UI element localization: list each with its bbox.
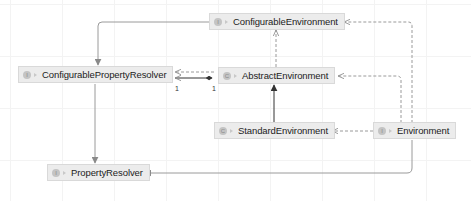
visibility-icon [389, 129, 392, 133]
edge-environment-abstractenvironment [338, 76, 401, 123]
node-label: ConfigurablePropertyResolver [42, 69, 166, 80]
class-icon: C [219, 127, 227, 135]
visibility-icon [34, 73, 37, 77]
visibility-icon [230, 129, 233, 133]
node-environment[interactable]: I Environment [373, 122, 456, 139]
edge-environment-configurableenvironment [344, 22, 412, 123]
interface-icon: I [378, 127, 386, 135]
node-label: Environment [397, 125, 449, 136]
edge-configurableenvironment-configurablepropertyresolver [98, 22, 211, 65]
multiplicity-label-left: 1 [175, 85, 179, 92]
node-label: AbstractEnvironment [242, 70, 328, 81]
node-standard-environment[interactable]: C StandardEnvironment [214, 122, 335, 139]
node-label: PropertyResolver [71, 167, 143, 178]
node-property-resolver[interactable]: I PropertyResolver [47, 164, 150, 181]
interface-icon: I [23, 71, 31, 79]
visibility-icon [234, 74, 237, 78]
multiplicity-label-right: 1 [212, 85, 216, 92]
node-label: StandardEnvironment [238, 125, 328, 136]
edge-environment-propertyresolver [145, 140, 412, 173]
interface-icon: I [52, 169, 60, 177]
interface-icon: I [214, 18, 222, 26]
abstract-class-icon: C [223, 72, 231, 80]
node-configurable-environment[interactable]: I ConfigurableEnvironment [209, 13, 345, 30]
node-configurable-property-resolver[interactable]: I ConfigurablePropertyResolver [18, 66, 173, 83]
visibility-icon [63, 171, 66, 175]
visibility-icon [225, 20, 228, 24]
node-label: ConfigurableEnvironment [233, 16, 338, 27]
node-abstract-environment[interactable]: C AbstractEnvironment [218, 67, 335, 84]
